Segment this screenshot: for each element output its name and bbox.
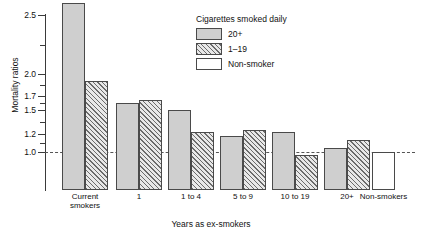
y-minor-tick (40, 143, 45, 144)
legend-items: 20+1–19Non-smoker (196, 28, 287, 70)
legend: Cigarettes smoked daily 20+1–19Non-smoke… (196, 14, 287, 73)
y-tick-label-1.5: 1.5 (8, 106, 36, 115)
y-minor-tick (40, 85, 45, 86)
label-line-1: 1 to 4 (165, 192, 217, 201)
y-tick-2.0 (38, 74, 45, 75)
label-line-1: 10 to 19 (269, 192, 321, 201)
label-line-2: smokers (56, 201, 114, 210)
y-tick-label-2.5: 2.5 (8, 11, 36, 20)
y-tick-1.7 (38, 96, 45, 97)
y-minor-tick (40, 45, 45, 46)
y-tick-1.5 (38, 110, 45, 111)
bar-20--20 (324, 148, 347, 190)
bar-current-smokers-119 (85, 81, 108, 190)
label-line-1: Non-smokers (355, 192, 413, 201)
bar-1-20 (116, 103, 139, 190)
x-category-label-1: 1 (113, 192, 165, 201)
y-tick-label-2.0: 2.0 (8, 70, 36, 79)
legend-item-non-smoker: Non-smoker (196, 58, 287, 70)
y-tick-label-1.7: 1.7 (8, 92, 36, 101)
y-minor-tick (40, 103, 45, 104)
legend-swatch-open (196, 58, 222, 70)
y-minor-tick (40, 122, 45, 123)
legend-swatch-solid (196, 28, 222, 40)
y-tick-1.0 (38, 152, 45, 153)
bar-20--119 (347, 140, 370, 190)
x-category-label-non-smokers: Non-smokers (355, 192, 413, 201)
legend-item-20-: 20+ (196, 28, 287, 40)
bar-1-to-4-20 (168, 110, 191, 190)
bar-1-119 (139, 100, 162, 191)
bar-5-to-9-20 (220, 136, 243, 190)
bar-5-to-9-119 (243, 130, 266, 190)
legend-label: Non-smoker (228, 59, 274, 69)
x-category-label-5-to-9: 5 to 9 (217, 192, 269, 201)
x-category-label-current-smokers: Currentsmokers (56, 192, 114, 210)
x-axis-label: Years as ex-smokers (0, 219, 422, 229)
legend-label: 1–19 (228, 44, 247, 54)
chart-figure: Mortality ratios 2.52.01.71.51.21.0 Curr… (0, 0, 422, 240)
legend-swatch-hatch (196, 43, 222, 55)
legend-item-1-19: 1–19 (196, 43, 287, 55)
bar-10-to-19-20 (272, 132, 295, 190)
x-category-label-10-to-19: 10 to 19 (269, 192, 321, 201)
bar-10-to-19-119 (295, 155, 318, 190)
y-tick-label-1.2: 1.2 (8, 130, 36, 139)
x-category-label-1-to-4: 1 to 4 (165, 192, 217, 201)
legend-title: Cigarettes smoked daily (196, 14, 287, 24)
label-line-1: 1 (113, 192, 165, 201)
label-line-1: Current (56, 192, 114, 201)
legend-label: 20+ (228, 29, 242, 39)
y-tick-label-1.0: 1.0 (8, 148, 36, 157)
y-axis-label: Mortality ratios (10, 40, 20, 130)
bar-non-smokers-Nonsmoker (372, 152, 395, 190)
y-tick-2.5 (38, 15, 45, 16)
bar-current-smokers-20 (62, 3, 85, 190)
y-tick-1.2 (38, 134, 45, 135)
bar-1-to-4-119 (191, 132, 214, 190)
y-axis-line (45, 14, 46, 191)
label-line-1: 5 to 9 (217, 192, 269, 201)
